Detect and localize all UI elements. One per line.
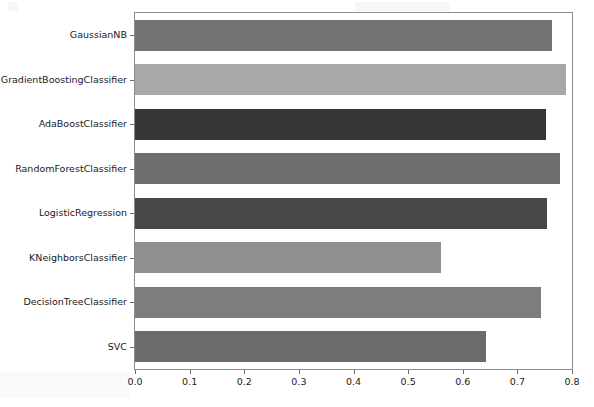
bar-decisiontreeclassifier <box>135 287 541 318</box>
bar-row <box>135 198 572 229</box>
bar-logisticregression <box>135 198 547 229</box>
bar-gaussiannb <box>135 20 552 51</box>
bar-svc <box>135 331 486 362</box>
bar-row <box>135 64 572 95</box>
bars-layer <box>135 13 572 369</box>
y-tick-label-randomforestclassifier: RandomForestClassifier <box>15 164 127 174</box>
y-tick-label-svc: SVC <box>108 342 127 352</box>
bar-row <box>135 153 572 184</box>
bar-gradientboostingclassifier <box>135 64 566 95</box>
y-axis-tick-labels: GaussianNBGradientBoostingClassifierAdaB… <box>0 0 127 407</box>
x-tick-mark <box>463 370 464 374</box>
x-tick-label-0.2: 0.2 <box>237 377 252 387</box>
y-tick-label-decisiontreeclassifier: DecisionTreeClassifier <box>23 298 127 308</box>
x-tick-label-0.7: 0.7 <box>510 377 525 387</box>
bar-randomforestclassifier <box>135 153 560 184</box>
y-tick-label-logisticregression: LogisticRegression <box>39 209 127 219</box>
x-tick-mark <box>354 370 355 374</box>
x-tick-mark <box>572 370 573 374</box>
x-tick-label-0.5: 0.5 <box>401 377 416 387</box>
x-tick-mark <box>244 370 245 374</box>
scan-artifact <box>355 2 450 11</box>
bar-row <box>135 331 572 362</box>
y-tick-label-kneighborsclassifier: KNeighborsClassifier <box>29 253 127 263</box>
y-tick-label-adaboostclassifier: AdaBoostClassifier <box>39 120 127 130</box>
x-tick-label-0.8: 0.8 <box>564 377 579 387</box>
x-tick-mark <box>517 370 518 374</box>
bar-row <box>135 287 572 318</box>
x-tick-label-0.1: 0.1 <box>182 377 197 387</box>
x-tick-mark <box>299 370 300 374</box>
x-tick-mark <box>408 370 409 374</box>
x-tick-label-0.6: 0.6 <box>455 377 470 387</box>
bar-row <box>135 109 572 140</box>
bar-adaboostclassifier <box>135 109 546 140</box>
bar-chart-figure: GaussianNBGradientBoostingClassifierAdaB… <box>0 0 594 407</box>
x-tick-label-0.4: 0.4 <box>346 377 361 387</box>
bar-row <box>135 242 572 273</box>
y-tick-label-gaussiannb: GaussianNB <box>70 31 127 41</box>
y-tick-label-gradientboostingclassifier: GradientBoostingClassifier <box>1 75 127 85</box>
x-tick-mark <box>190 370 191 374</box>
x-tick-label-0.0: 0.0 <box>127 377 142 387</box>
bar-kneighborsclassifier <box>135 242 441 273</box>
x-tick-label-0.3: 0.3 <box>291 377 306 387</box>
bar-row <box>135 20 572 51</box>
x-tick-mark <box>135 370 136 374</box>
